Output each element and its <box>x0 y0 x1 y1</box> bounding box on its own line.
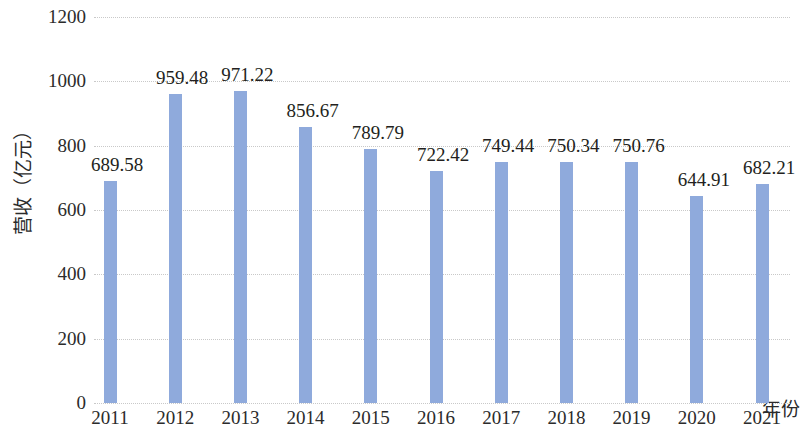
gridline <box>94 17 790 18</box>
x-axis-tick-label: 2011 <box>70 408 150 427</box>
bar-value-label: 689.58 <box>72 155 162 174</box>
x-axis-tick-label: 2016 <box>396 408 476 427</box>
bar[interactable] <box>756 184 769 403</box>
bar[interactable] <box>690 196 703 403</box>
y-axis-tick-label: 200 <box>58 329 87 348</box>
bar[interactable] <box>560 162 573 403</box>
bar[interactable] <box>495 162 508 403</box>
y-axis-tick-label: 600 <box>58 200 87 219</box>
y-axis-tick-label: 400 <box>58 264 87 283</box>
bar[interactable] <box>625 162 638 403</box>
y-axis-tick-label: 1000 <box>48 71 86 90</box>
x-axis-tick-label: 2015 <box>331 408 411 427</box>
bar-chart: 营收（亿元） 年份 020040060080010001200 689.5895… <box>0 0 812 435</box>
bar-value-label: 750.76 <box>594 136 684 155</box>
plot-area: 689.58959.48971.22856.67789.79722.42749.… <box>94 17 790 403</box>
x-axis-tick-label: 2018 <box>526 408 606 427</box>
y-axis-tick-label: 800 <box>58 136 87 155</box>
y-axis-tick-label: 1200 <box>48 7 86 26</box>
y-axis-title: 营收（亿元） <box>14 93 33 263</box>
x-axis-tick-label: 2019 <box>592 408 672 427</box>
y-axis-tick-label: 0 <box>77 393 87 412</box>
gridline <box>94 403 790 404</box>
bar[interactable] <box>234 91 247 403</box>
x-axis-tick-label: 2013 <box>200 408 280 427</box>
bar[interactable] <box>299 127 312 403</box>
x-axis-tick-label: 2020 <box>657 408 737 427</box>
bar[interactable] <box>104 181 117 403</box>
bar-value-label: 682.21 <box>724 158 812 177</box>
bar[interactable] <box>364 149 377 403</box>
bar-value-label: 856.67 <box>268 101 358 120</box>
x-axis-tick-label: 2014 <box>266 408 346 427</box>
x-axis-tick-label: 2012 <box>135 408 215 427</box>
bar-value-label: 789.79 <box>333 123 423 142</box>
bar[interactable] <box>169 94 182 403</box>
bar[interactable] <box>430 171 443 403</box>
bar-value-label: 971.22 <box>202 65 292 84</box>
x-axis-tick-label: 2017 <box>461 408 541 427</box>
